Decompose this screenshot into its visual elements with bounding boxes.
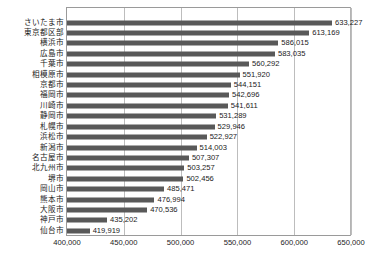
bar-value-label: 502,456 — [186, 175, 213, 183]
bar-row: 浜松市522,927 — [0, 132, 370, 142]
category-label: 熊本市 — [40, 196, 64, 204]
category-label: 静岡市 — [40, 112, 64, 120]
bar-rows: さいたま市633,227東京都区部613,169横浜市586,015広島市583… — [0, 7, 370, 236]
bar — [67, 103, 228, 108]
bar-chart: さいたま市633,227東京都区部613,169横浜市586,015広島市583… — [0, 0, 370, 260]
x-tick-label: 500,000 — [167, 238, 194, 248]
bar-row: 千葉市560,292 — [0, 59, 370, 69]
bar-row: 仙台市419,919 — [0, 226, 370, 236]
category-label: 浜松市 — [40, 133, 64, 141]
category-label: 新潟市 — [40, 144, 64, 152]
category-label: 相模原市 — [32, 71, 64, 79]
bar-row: 岡山市485,471 — [0, 184, 370, 194]
bar-row: 北九州市503,257 — [0, 163, 370, 173]
x-tick-label: 650,000 — [337, 238, 364, 248]
category-label: 京都市 — [40, 81, 64, 89]
bar-value-label: 419,919 — [93, 227, 120, 235]
x-tick-label: 400,000 — [53, 238, 80, 248]
bar-row: 静岡市531,289 — [0, 111, 370, 121]
bar-row: 神戸市435,202 — [0, 215, 370, 225]
bar — [67, 62, 249, 67]
category-label: 東京都区部 — [24, 29, 64, 37]
bar-value-label: 476,994 — [157, 196, 184, 204]
bar — [67, 145, 197, 150]
bar-row: 福岡市542,696 — [0, 90, 370, 100]
bar-row: 札幌市529,946 — [0, 122, 370, 132]
bar-row: 熊本市476,994 — [0, 194, 370, 204]
bar-value-label: 470,536 — [150, 206, 177, 214]
bar-value-label: 514,003 — [200, 144, 227, 152]
bar — [67, 72, 240, 77]
bar-value-label: 551,920 — [243, 71, 270, 79]
bar — [67, 41, 278, 46]
bar — [67, 166, 184, 171]
bar-value-label: 522,927 — [210, 133, 237, 141]
category-label: 名古屋市 — [32, 154, 64, 162]
bar-row: 名古屋市507,307 — [0, 153, 370, 163]
category-label: 千葉市 — [40, 60, 64, 68]
bar — [67, 20, 332, 25]
bar — [67, 228, 90, 233]
bar-row: 横浜市586,015 — [0, 38, 370, 48]
bar-value-label: 541,611 — [231, 102, 258, 110]
bar-value-label: 485,471 — [167, 185, 194, 193]
bar-row: 広島市583,035 — [0, 49, 370, 59]
bar — [67, 135, 207, 140]
bar-row: 相模原市551,920 — [0, 69, 370, 79]
bar — [67, 155, 189, 160]
bar — [67, 83, 231, 88]
x-tick-label: 450,000 — [110, 238, 137, 248]
bar — [67, 31, 309, 36]
bar — [67, 114, 216, 119]
bar-value-label: 507,307 — [192, 154, 219, 162]
category-label: 仙台市 — [40, 227, 64, 235]
category-label: 札幌市 — [40, 123, 64, 131]
category-label: 福岡市 — [40, 91, 64, 99]
category-label: 北九州市 — [32, 164, 64, 172]
category-label: 大阪市 — [40, 206, 64, 214]
bar-value-label: 560,292 — [252, 60, 279, 68]
bar — [67, 124, 215, 129]
bar — [67, 197, 154, 202]
bar — [67, 187, 164, 192]
bar-value-label: 435,202 — [110, 216, 137, 224]
x-tick-label: 550,000 — [224, 238, 251, 248]
category-label: 岡山市 — [40, 185, 64, 193]
category-label: 広島市 — [40, 50, 64, 58]
bar-value-label: 544,151 — [234, 81, 261, 89]
bar — [67, 176, 183, 181]
bar-value-label: 503,257 — [187, 164, 214, 172]
bar-row: 京都市544,151 — [0, 80, 370, 90]
bar-value-label: 583,035 — [278, 50, 305, 58]
bar — [67, 93, 229, 98]
category-label: さいたま市 — [24, 19, 64, 27]
bar-row: 東京都区部613,169 — [0, 28, 370, 38]
bar-row: 大阪市470,536 — [0, 205, 370, 215]
bar-value-label: 613,169 — [312, 29, 339, 37]
category-label: 横浜市 — [40, 39, 64, 47]
bar-row: 堺市502,456 — [0, 174, 370, 184]
category-label: 川崎市 — [40, 102, 64, 110]
bar-value-label: 542,696 — [232, 91, 259, 99]
category-label: 神戸市 — [40, 216, 64, 224]
bar — [67, 207, 147, 212]
bar-value-label: 633,227 — [335, 19, 362, 27]
x-axis-tick-labels: 400,000450,000500,000550,000600,000650,0… — [0, 238, 370, 252]
bar-row: 新潟市514,003 — [0, 142, 370, 152]
bar-value-label: 531,289 — [219, 112, 246, 120]
bar-value-label: 529,946 — [218, 123, 245, 131]
bar-row: さいたま市633,227 — [0, 17, 370, 27]
category-label: 堺市 — [48, 175, 64, 183]
bar — [67, 51, 275, 56]
bar-row: 川崎市541,611 — [0, 101, 370, 111]
bar-value-label: 586,015 — [281, 39, 308, 47]
x-tick-label: 600,000 — [280, 238, 307, 248]
bar — [67, 218, 107, 223]
